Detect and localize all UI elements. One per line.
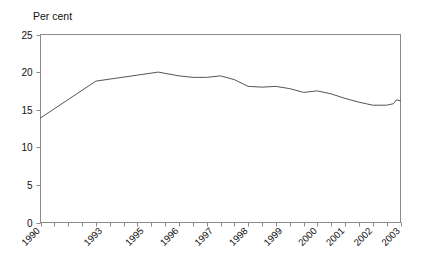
data-series-line [41, 72, 401, 118]
x-axis-tick-label: 1997 [192, 225, 215, 248]
x-axis-tick-label: 2001 [324, 225, 347, 248]
x-axis-tick-labels: 1990199319951996199719981999200020012002… [19, 225, 402, 248]
y-axis-tick-label: 15 [21, 105, 33, 116]
x-axis-tick-label: 1995 [123, 225, 146, 248]
x-axis-tick-label: 2000 [296, 225, 319, 248]
y-axis-ticks [37, 36, 41, 224]
x-axis-tick-label: 1990 [19, 225, 42, 248]
y-axis-tick-label: 5 [27, 180, 33, 191]
x-axis-tick-label: 1993 [81, 225, 104, 248]
x-axis-tick-label: 1996 [158, 225, 181, 248]
y-axis-tick-labels: 0510152025 [21, 30, 33, 229]
y-axis-tick-label: 25 [21, 30, 33, 41]
x-axis-tick-label: 2002 [351, 225, 374, 248]
y-axis-tick-label: 10 [21, 142, 33, 153]
x-axis-tick-label: 1998 [227, 225, 250, 248]
chart-plot-area: 0510152025 19901993199519961997199819992… [0, 0, 421, 272]
x-axis-tick-label: 2003 [379, 225, 402, 248]
y-axis-tick-label: 20 [21, 67, 33, 78]
x-axis-tick-label: 1999 [261, 225, 284, 248]
line-chart-figure: Per cent 0510152025 19901993199519961997… [0, 0, 421, 272]
plot-frame [41, 35, 401, 223]
